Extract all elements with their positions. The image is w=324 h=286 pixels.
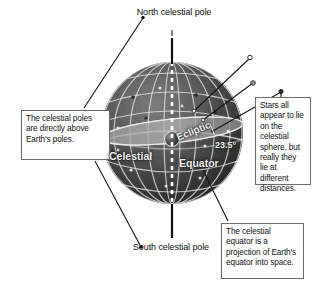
celestial-sphere-figure: North celestial pole South celestial pol… xyxy=(0,0,324,286)
callout-stars-distances: Stars all appear to lie on the celestial… xyxy=(255,97,311,185)
callout-celestial-equator: The celestial equator is a projection of… xyxy=(221,223,304,279)
callout-celestial-poles: The celestial poles are directly above E… xyxy=(21,110,110,160)
label-south-celestial-pole: South celestial pole xyxy=(121,242,221,253)
label-north-celestial-pole: North celestial pole xyxy=(126,7,222,18)
